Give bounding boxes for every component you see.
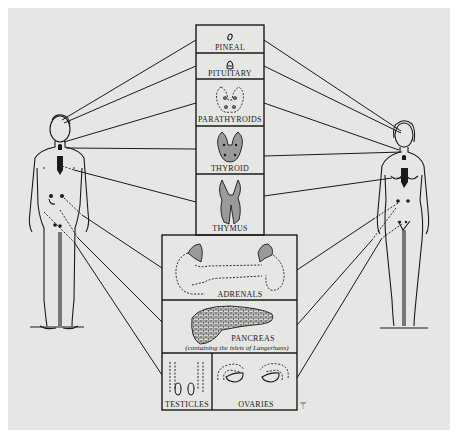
thyroid-gland-icon	[218, 132, 243, 162]
thymus-panel: THYMUS	[212, 180, 248, 233]
adrenal-gland-right-icon	[258, 244, 273, 262]
testicles-panel: TESTICLES	[165, 362, 209, 409]
adrenals-panel: ADRENALS	[176, 244, 284, 299]
pancreas-note: (containing the islets of Langerhans)	[185, 344, 289, 352]
thymus-gland-icon	[220, 180, 241, 224]
thyroid-label: THYROID	[211, 164, 249, 173]
adrenal-gland-left-icon	[188, 244, 202, 262]
kidney-outline-right	[266, 253, 284, 290]
artist-signature-mark: ⚚	[299, 400, 308, 411]
pancreas-panel: PANCREAS (containing the islets of Lange…	[185, 306, 289, 352]
testicle-left-icon	[175, 383, 181, 395]
parathyroids-gland-icon	[217, 87, 244, 112]
pineal-panel: PINEAL	[215, 33, 245, 52]
ovaries-label: OVARIES	[238, 400, 274, 409]
female-figure	[377, 121, 428, 328]
ovary-right-icon	[262, 373, 279, 382]
pituitary-label: PITUITARY	[208, 69, 252, 78]
ovaries-panel: OVARIES	[218, 364, 289, 409]
testicles-label: TESTICLES	[165, 400, 209, 409]
pancreas-label: PANCREAS	[231, 334, 274, 343]
male-figure	[29, 115, 88, 329]
thymus-label: THYMUS	[212, 224, 248, 233]
testicle-right-icon	[188, 383, 194, 395]
pineal-label: PINEAL	[215, 43, 245, 52]
pituitary-gland-icon	[227, 61, 233, 69]
pineal-gland-icon	[227, 33, 233, 40]
male-connector-lines	[44, 40, 196, 375]
parathyroids-panel: PARATHYROIDS	[198, 87, 262, 124]
female-connector-lines	[264, 40, 402, 378]
pituitary-panel: PITUITARY	[208, 61, 252, 78]
adrenals-label: ADRENALS	[217, 290, 262, 299]
endocrine-diagram: PINEAL PITUITARY PARATHYROIDS THYROID TH…	[0, 0, 458, 435]
parathyroids-label: PARATHYROIDS	[198, 115, 262, 124]
ovary-left-icon	[226, 373, 243, 382]
thyroid-panel: THYROID	[211, 132, 249, 173]
